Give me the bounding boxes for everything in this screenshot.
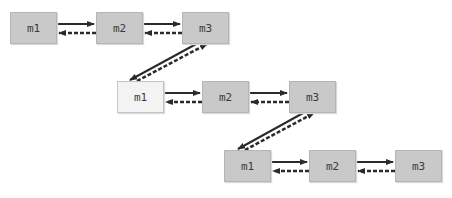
node-label: m1 — [27, 22, 40, 35]
node-label: m2 — [219, 91, 232, 104]
node-r3-m2: m2 — [309, 150, 356, 182]
node-label: m3 — [412, 160, 425, 173]
backward-arrow-r2m1-r1m3 — [137, 44, 207, 81]
forward-arrow-r1m3-r2m1 — [130, 43, 198, 80]
node-r1-m1: m1 — [10, 12, 57, 44]
node-label: m3 — [199, 22, 212, 35]
node-label: m1 — [134, 91, 147, 104]
node-r3-m3: m3 — [395, 150, 442, 182]
backward-arrow-r3m1-r2m3 — [245, 113, 314, 150]
node-label: m2 — [113, 22, 126, 35]
node-label: m2 — [326, 160, 339, 173]
node-r2-m2: m2 — [202, 81, 249, 113]
node-r1-m2: m2 — [96, 12, 143, 44]
node-label: m1 — [241, 160, 254, 173]
node-r3-m1: m1 — [224, 150, 271, 182]
forward-arrow-r2m3-r3m1 — [238, 112, 305, 149]
node-label: m3 — [306, 91, 319, 104]
node-r2-m3: m3 — [289, 81, 336, 113]
node-r2-m1-highlighted: m1 — [117, 81, 164, 113]
node-r1-m3: m3 — [182, 12, 229, 44]
